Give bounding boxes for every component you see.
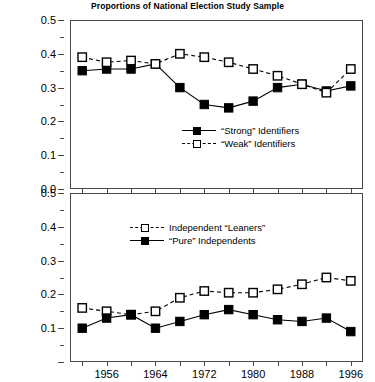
- x-axis-tick-label: 1980: [241, 368, 265, 380]
- y-axis-tick-label: 0.4: [41, 221, 56, 232]
- y-axis-major-tick: [58, 328, 64, 329]
- data-point-marker: [78, 67, 86, 75]
- x-axis-tick-label: 1956: [94, 368, 118, 380]
- y-axis-minor-tick: [60, 210, 64, 211]
- y-axis-major-tick: [58, 88, 64, 89]
- y-axis-major-tick: [58, 20, 64, 21]
- data-point-marker: [200, 53, 208, 61]
- data-point-marker: [78, 324, 86, 332]
- y-axis-tick-label: 0.4: [41, 48, 56, 59]
- top-chart-panel: 0.50.40.30.20.10.0 “Strong” Identifiers“…: [70, 20, 363, 189]
- data-point-marker: [127, 310, 135, 318]
- y-axis-major-tick: [58, 155, 64, 156]
- data-point-marker: [249, 310, 257, 318]
- data-point-marker: [200, 100, 208, 108]
- y-axis-minor-tick: [60, 138, 64, 139]
- y-axis-tick-label: 0.3: [41, 82, 56, 93]
- y-axis-tick-label: 0.5: [41, 188, 56, 199]
- data-point-marker: [200, 310, 208, 318]
- x-axis-tick-label: 1964: [143, 368, 167, 380]
- x-axis-tick: [253, 362, 254, 366]
- data-point-marker: [225, 58, 233, 66]
- bottom-y-axis: 0.50.40.30.20.1: [0, 193, 64, 362]
- data-point-marker: [249, 97, 257, 105]
- data-point-marker: [200, 287, 208, 295]
- data-point-marker: [127, 56, 135, 64]
- legend-entry: “Strong” Identifiers: [182, 124, 299, 137]
- series-line: [82, 278, 351, 315]
- data-point-marker: [102, 314, 110, 322]
- data-point-marker: [298, 317, 306, 325]
- y-axis-tick-label: 0.2: [41, 116, 56, 127]
- data-point-marker: [78, 53, 86, 61]
- x-axis-tick-label: 1972: [192, 368, 216, 380]
- legend-label: “Weak” Identifiers: [221, 137, 295, 150]
- y-axis-minor-tick: [60, 37, 64, 38]
- y-axis-minor-tick: [60, 311, 64, 312]
- data-point-marker: [347, 65, 355, 73]
- open-square-icon: [182, 137, 216, 150]
- legend-entry: “Weak” Identifiers: [182, 137, 299, 150]
- x-axis-tick-label: 1988: [290, 368, 314, 380]
- series-line: [82, 64, 351, 108]
- legend-label: “Pure” Independents: [169, 234, 256, 247]
- y-axis-major-tick: [58, 227, 64, 228]
- bottom-plot-series: [70, 193, 363, 362]
- legend-label: “Strong” Identifiers: [221, 124, 299, 137]
- data-point-marker: [347, 327, 355, 335]
- data-point-marker: [225, 289, 233, 297]
- y-axis-minor-tick: [60, 244, 64, 245]
- data-point-marker: [176, 50, 184, 58]
- y-axis-tick-label: 0.2: [41, 289, 56, 300]
- data-point-marker: [347, 277, 355, 285]
- y-axis-minor-tick: [60, 345, 64, 346]
- top-y-axis: 0.50.40.30.20.10.0: [0, 20, 64, 189]
- series-line: [82, 310, 351, 332]
- x-axis-tick: [278, 362, 279, 366]
- data-point-marker: [298, 80, 306, 88]
- data-point-marker: [127, 65, 135, 73]
- data-point-marker: [151, 307, 159, 315]
- data-point-marker: [151, 60, 159, 68]
- x-axis-tick: [82, 362, 83, 366]
- open-square-icon: [130, 221, 164, 234]
- x-axis-tick-label: 1996: [339, 368, 363, 380]
- data-point-marker: [225, 305, 233, 313]
- y-axis-major-tick: [58, 189, 64, 190]
- data-point-marker: [176, 83, 184, 91]
- data-point-marker: [273, 316, 281, 324]
- x-axis-tick: [107, 362, 108, 366]
- x-axis-tick: [302, 362, 303, 366]
- data-point-marker: [249, 65, 257, 73]
- data-point-marker: [151, 324, 159, 332]
- x-axis-tick: [229, 362, 230, 366]
- y-axis-minor-tick: [60, 71, 64, 72]
- y-axis-major-tick: [58, 294, 64, 295]
- data-point-marker: [225, 104, 233, 112]
- data-point-marker: [273, 285, 281, 293]
- y-axis-major-tick: [58, 362, 64, 363]
- y-axis-major-tick: [58, 261, 64, 262]
- data-point-marker: [176, 317, 184, 325]
- x-axis-tick: [326, 362, 327, 366]
- data-point-marker: [102, 58, 110, 66]
- y-axis-minor-tick: [60, 278, 64, 279]
- x-axis-tick: [204, 362, 205, 366]
- x-axis-tick: [155, 362, 156, 366]
- data-point-marker: [298, 280, 306, 288]
- data-point-marker: [176, 294, 184, 302]
- chart-figure: Proportions of National Election Study S…: [0, 0, 375, 382]
- bottom-chart-panel: 0.50.40.30.20.1 195619641972198019881996…: [70, 193, 363, 362]
- y-axis-tick-label: 0.1: [41, 150, 56, 161]
- x-axis-tick: [351, 362, 352, 366]
- y-axis-major-tick: [58, 193, 64, 194]
- y-axis-major-tick: [58, 54, 64, 55]
- y-axis-tick-label: 0.5: [41, 15, 56, 26]
- data-point-marker: [273, 83, 281, 91]
- filled-square-icon: [130, 234, 164, 247]
- top-legend: “Strong” Identifiers“Weak” Identifiers: [182, 124, 299, 150]
- y-axis-major-tick: [58, 121, 64, 122]
- data-point-marker: [322, 314, 330, 322]
- data-point-marker: [273, 72, 281, 80]
- filled-square-icon: [182, 124, 216, 137]
